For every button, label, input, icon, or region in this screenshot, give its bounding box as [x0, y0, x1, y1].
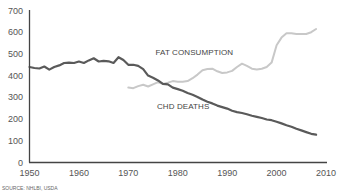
series-lines	[30, 29, 317, 135]
chd-deaths-line	[30, 57, 317, 135]
y-tick-label: 600	[8, 27, 23, 37]
chd-deaths-label: CHD DEATHS	[157, 102, 209, 111]
y-tick-label: 0	[18, 158, 23, 168]
y-axis-ticks: 0100200300400500600700	[8, 6, 23, 168]
y-tick-label: 300	[8, 92, 23, 102]
x-tick-label: 1960	[69, 168, 89, 178]
x-axis-ticks: 1950196019701980199020002010	[19, 168, 336, 178]
y-tick-label: 700	[8, 6, 23, 16]
line-chart: 0100200300400500600700 19501960197019801…	[0, 0, 344, 195]
x-tick-label: 1970	[118, 168, 138, 178]
fat-consumption-label: FAT CONSUMPTION	[156, 48, 234, 57]
y-tick-label: 500	[8, 49, 23, 59]
y-tick-label: 200	[8, 114, 23, 124]
source-note: SOURCE: NHLBI, USDA	[2, 185, 58, 191]
x-tick-label: 2000	[267, 168, 287, 178]
x-tick-label: 1980	[168, 168, 188, 178]
x-tick-label: 1950	[19, 168, 39, 178]
x-tick-label: 1990	[217, 168, 237, 178]
y-tick-label: 400	[8, 71, 23, 81]
y-tick-label: 100	[8, 136, 23, 146]
x-tick-label: 2010	[316, 168, 336, 178]
